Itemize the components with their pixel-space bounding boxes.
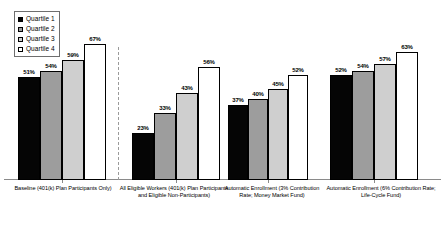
bar-group-bars: 23%33%43%56%	[132, 28, 220, 180]
x-axis-category-label: Automatic Enrollment (6% Contribution Ra…	[322, 185, 440, 199]
bar-group-bars: 37%40%45%52%	[228, 28, 308, 180]
bar-slot: 43%	[176, 28, 198, 180]
bar-value-label: 37%	[228, 97, 248, 104]
bar-value-label: 63%	[396, 44, 418, 51]
legend-label-quartile-4: Quartile 4	[26, 44, 55, 54]
bar-value-label: 33%	[154, 105, 176, 112]
bar-slot: 57%	[374, 28, 396, 180]
bar-slot: 45%	[268, 28, 288, 180]
legend-label-quartile-2: Quartile 2	[26, 24, 55, 34]
x-axis-category-label: All Eligible Workers (401(k) Plan Partic…	[118, 185, 230, 199]
legend-label-quartile-1: Quartile 1	[26, 14, 55, 24]
bar-slot: 56%	[198, 28, 220, 180]
legend-swatch-quartile-3	[18, 37, 23, 42]
bar-value-label: 56%	[198, 59, 220, 66]
bar[interactable]	[198, 67, 220, 180]
bar-group: 23%33%43%56%	[132, 28, 220, 180]
bar-value-label: 23%	[132, 125, 154, 132]
bar[interactable]	[18, 77, 40, 180]
bar-slot: 67%	[84, 28, 106, 180]
bar[interactable]	[132, 133, 154, 180]
bar-slot: 40%	[248, 28, 268, 180]
bar[interactable]	[62, 60, 84, 180]
bar[interactable]	[288, 75, 308, 180]
bar-chart: Quartile 1 Quartile 2 Quartile 3 Quartil…	[0, 0, 445, 233]
bar-group: 37%40%45%52%	[228, 28, 308, 180]
bar-slot: 63%	[396, 28, 418, 180]
legend-item-quartile-1: Quartile 1	[18, 14, 55, 24]
legend-swatch-quartile-2	[18, 27, 23, 32]
bar[interactable]	[374, 64, 396, 180]
bar-slot: 37%	[228, 28, 248, 180]
bar-value-label: 43%	[176, 85, 198, 92]
bar-slot: 52%	[288, 28, 308, 180]
bar[interactable]	[352, 71, 374, 180]
legend-item-quartile-4: Quartile 4	[18, 44, 55, 54]
x-axis-tick	[374, 180, 375, 183]
bar[interactable]	[248, 99, 268, 180]
legend-swatch-quartile-1	[18, 17, 23, 22]
bar[interactable]	[330, 75, 352, 180]
bar-value-label: 54%	[352, 63, 374, 70]
bar-value-label: 40%	[248, 91, 268, 98]
bar[interactable]	[396, 52, 418, 180]
bar-value-label: 52%	[330, 67, 352, 74]
bar-slot: 23%	[132, 28, 154, 180]
bar-value-label: 54%	[40, 63, 62, 70]
group-separator-dashed-line	[118, 47, 119, 180]
legend-swatch-quartile-4	[18, 47, 23, 52]
bar-slot: 33%	[154, 28, 176, 180]
bar[interactable]	[154, 113, 176, 180]
bar-value-label: 51%	[18, 69, 40, 76]
x-axis-tick	[62, 180, 63, 183]
bar[interactable]	[176, 93, 198, 180]
chart-legend: Quartile 1 Quartile 2 Quartile 3 Quartil…	[14, 11, 60, 57]
bar-value-label: 45%	[268, 81, 288, 88]
bar-slot: 54%	[352, 28, 374, 180]
bar-slot: 59%	[62, 28, 84, 180]
legend-label-quartile-3: Quartile 3	[26, 34, 55, 44]
x-axis-tick	[268, 180, 269, 183]
plot-area: 51%54%59%67%23%33%43%56%37%40%45%52%52%5…	[0, 28, 445, 180]
bar[interactable]	[228, 105, 248, 180]
bar-value-label: 57%	[374, 56, 396, 63]
bar-slot: 52%	[330, 28, 352, 180]
x-axis-category-label: Baseline (401(k) Plan Participants Only)	[14, 185, 112, 192]
bar[interactable]	[84, 44, 106, 180]
bar-value-label: 59%	[62, 52, 84, 59]
bar-value-label: 67%	[84, 36, 106, 43]
legend-item-quartile-3: Quartile 3	[18, 34, 55, 44]
bar-group: 52%54%57%63%	[330, 28, 418, 180]
bar-value-label: 52%	[288, 67, 308, 74]
x-axis-tick	[176, 180, 177, 183]
bar[interactable]	[40, 71, 62, 180]
bar-group-bars: 52%54%57%63%	[330, 28, 418, 180]
legend-item-quartile-2: Quartile 2	[18, 24, 55, 34]
bar[interactable]	[268, 89, 288, 180]
x-axis-category-label: Automatic Enrollment (3% Contribution Ra…	[222, 185, 322, 199]
